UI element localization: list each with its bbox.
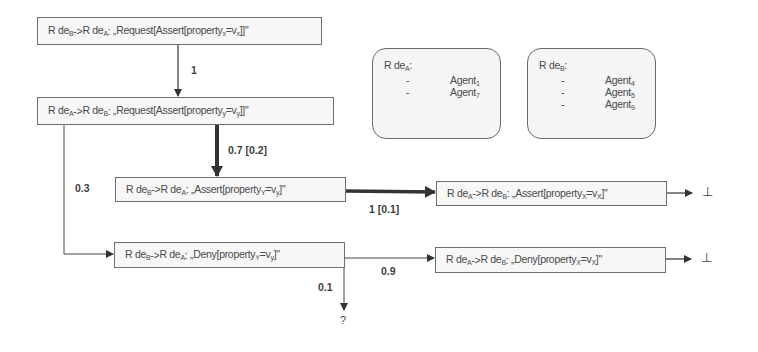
receiver: R deA: [159, 249, 184, 261]
message: „Request[Assert[propertyy=vy]]": [113, 105, 248, 117]
message-box-request-b-to-a: R deB->R deA: „Request[Assert[propertyx=…: [37, 17, 322, 45]
group-title: R deA:: [384, 59, 500, 72]
message: „Assert[propertyX=vX]": [512, 188, 607, 200]
message: „Request[Assert[propertyx=vx]]": [113, 25, 248, 37]
edge-label-b2-b5: 0.3: [75, 182, 90, 194]
group-box-b: R deB: -Agent4 -Agent5 -Agent9: [527, 48, 656, 139]
group-member: -Agent4: [539, 74, 655, 86]
sender: R deA: [446, 254, 471, 266]
sender: R deA: [447, 188, 472, 200]
receiver: R deB: [481, 188, 506, 200]
receiver: R deA: [82, 25, 107, 37]
message-box-request-a-to-b: R deA->R deB: „Request[Assert[propertyy=…: [37, 97, 334, 125]
message-box-assert-a-to-b: R deA->R deB: „Assert[propertyX=vX]": [436, 181, 667, 206]
edge-label-b5-b6: 0.9: [381, 265, 396, 277]
message-box-assert-b-to-a: R deB->R deA: „Assert[propertyY=vy]": [115, 177, 346, 202]
receiver: R deB: [82, 105, 107, 117]
receiver: R deA: [160, 184, 185, 196]
message: „Deny[propertyX=vX]": [511, 254, 602, 266]
edge-label-b3-b4: 1 [0.1]: [369, 203, 399, 215]
message-box-deny-a-to-b: R deA->R deB: „Deny[propertyX=vX]": [435, 247, 666, 273]
sender: R deA: [48, 105, 73, 117]
edge-label-b5-unknown: 0.1: [318, 281, 333, 293]
group-member: -Agent5: [539, 86, 655, 98]
receiver: R deB: [480, 254, 505, 266]
terminal-bottom-symbol: ⊥: [701, 250, 712, 265]
message-box-deny-b-to-a: R deB->R deA: „Deny[propertyY=vy]": [114, 242, 345, 268]
sender: R deB: [125, 249, 150, 261]
sender: R deB: [126, 184, 151, 196]
group-member: -Agent1: [384, 74, 500, 86]
terminal-bottom-symbol: ⊥: [702, 184, 713, 199]
group-member: -Agent9: [539, 98, 655, 110]
sender: R deB: [48, 25, 73, 37]
group-title: R deB:: [539, 59, 655, 72]
edge-label-b2-b3: 0.7 [0.2]: [228, 144, 267, 156]
message: „Assert[propertyY=vy]": [191, 184, 285, 196]
group-member: -Agent7: [384, 86, 500, 98]
terminal-unknown-symbol: ?: [340, 314, 346, 326]
edge-label-b1-b2: 1: [191, 64, 197, 76]
message: „Deny[propertyY=vy]": [190, 249, 280, 261]
edge-b3-b4: [345, 191, 435, 192]
group-box-a: R deA: -Agent1 -Agent7: [372, 48, 501, 139]
